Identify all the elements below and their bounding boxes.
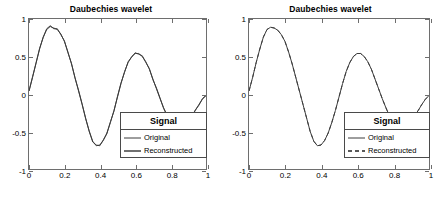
x-tick-label: 0.4: [316, 171, 327, 180]
y-tick-mark: [249, 133, 253, 134]
x-tick-mark: [208, 19, 209, 23]
x-tick-mark: [358, 19, 359, 23]
x-tick-label: 0.6: [353, 171, 364, 180]
legend-entries-right: Original Reconstructed: [345, 130, 429, 157]
y-tick-label: 0: [22, 91, 26, 100]
y-tick-label: -1: [239, 167, 246, 176]
x-tick-mark: [136, 19, 137, 23]
y-tick-mark: [29, 57, 33, 58]
x-tick-mark: [285, 165, 286, 169]
x-tick-mark: [65, 165, 66, 169]
y-tick-label: -0.5: [12, 129, 26, 138]
legend-title-left: Signal: [121, 113, 206, 130]
x-tick-label: 0.2: [280, 171, 291, 180]
x-tick-mark: [431, 19, 432, 23]
y-tick-mark: [29, 133, 33, 134]
line-sample-solid-icon: [123, 146, 142, 156]
y-tick-mark: [425, 19, 429, 20]
legend-label-reconstructed: Reconstructed: [368, 146, 416, 155]
legend-label-reconstructed: Reconstructed: [144, 146, 192, 155]
x-tick-mark: [172, 19, 173, 23]
x-tick-mark: [208, 165, 209, 169]
y-tick-label: 1: [242, 15, 246, 24]
y-tick-label: 0.5: [235, 53, 246, 62]
y-tick-label: -0.5: [232, 129, 246, 138]
x-tick-mark: [172, 165, 173, 169]
x-tick-mark: [358, 165, 359, 169]
x-tick-mark: [101, 165, 102, 169]
x-tick-mark: [322, 165, 323, 169]
legend-entries-left: Original Reconstructed: [121, 130, 206, 157]
line-sample-dashed-icon: [347, 146, 366, 156]
y-tick-mark: [249, 95, 253, 96]
plot-title-left: Daubechies wavelet: [0, 4, 222, 14]
x-tick-label: 0: [247, 171, 251, 180]
legend-right: Signal Original Reconstructed: [344, 112, 430, 158]
legend-label-original: Original: [368, 133, 394, 142]
y-tick-mark: [202, 19, 206, 20]
x-tick-mark: [431, 165, 432, 169]
y-tick-mark: [425, 57, 429, 58]
x-tick-label: 0.4: [95, 171, 106, 180]
y-tick-label: -1: [19, 167, 26, 176]
x-tick-mark: [65, 19, 66, 23]
legend-title-right: Signal: [345, 113, 429, 130]
y-tick-label: 0.5: [15, 53, 26, 62]
y-tick-label: 1: [22, 15, 26, 24]
legend-item-original[interactable]: Original: [123, 131, 206, 144]
y-tick-mark: [249, 57, 253, 58]
figure-container: Daubechies wavelet 10.50-0.5-100.20.40.6…: [0, 0, 445, 200]
x-tick-label: 0.8: [389, 171, 400, 180]
y-tick-mark: [425, 95, 429, 96]
x-tick-mark: [136, 165, 137, 169]
plot-title-right: Daubechies wavelet: [222, 4, 445, 14]
plot-panel-left: Daubechies wavelet 10.50-0.5-100.20.40.6…: [0, 0, 222, 200]
x-tick-label: 0: [27, 171, 31, 180]
legend-left: Signal Original Reconstructed: [120, 112, 207, 158]
line-sample-solid-icon: [123, 133, 142, 143]
x-tick-mark: [395, 19, 396, 23]
line-sample-solid-icon: [347, 133, 366, 143]
y-tick-mark: [202, 57, 206, 58]
y-tick-mark: [29, 95, 33, 96]
x-tick-mark: [395, 165, 396, 169]
x-tick-mark: [29, 165, 30, 169]
legend-item-original[interactable]: Original: [347, 131, 429, 144]
legend-label-original: Original: [144, 133, 170, 142]
x-tick-mark: [29, 19, 30, 23]
legend-item-reconstructed[interactable]: Reconstructed: [123, 144, 206, 157]
y-tick-mark: [202, 95, 206, 96]
plot-panel-right: Daubechies wavelet 10.50-0.5-100.20.40.6…: [222, 0, 445, 200]
x-tick-mark: [101, 19, 102, 23]
x-tick-label: 1: [429, 171, 433, 180]
x-tick-mark: [322, 19, 323, 23]
legend-item-reconstructed[interactable]: Reconstructed: [347, 144, 429, 157]
x-tick-label: 1: [206, 171, 210, 180]
x-tick-mark: [249, 165, 250, 169]
x-tick-label: 0.6: [131, 171, 142, 180]
x-tick-label: 0.8: [167, 171, 178, 180]
x-tick-mark: [285, 19, 286, 23]
x-tick-mark: [249, 19, 250, 23]
y-tick-label: 0: [242, 91, 246, 100]
x-tick-label: 0.2: [59, 171, 70, 180]
